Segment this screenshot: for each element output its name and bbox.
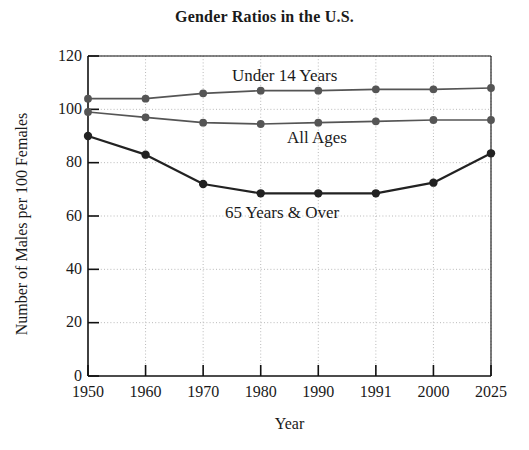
series-label-all-ages: All Ages — [287, 128, 347, 148]
x-tick-1960: 1960 — [116, 383, 176, 401]
x-axis-label: Year — [88, 415, 491, 433]
x-tick-1980: 1980 — [231, 383, 291, 401]
x-tick-1970: 1970 — [173, 383, 233, 401]
x-tick-1990: 1990 — [288, 383, 348, 401]
series-label-65-over: 65 Years & Over — [225, 203, 339, 223]
x-tick-2025: 2025 — [461, 383, 521, 401]
x-tick-1991: 1991 — [346, 383, 406, 401]
x-tick-1950: 1950 — [58, 383, 118, 401]
series-label-under-14: Under 14 Years — [232, 66, 337, 86]
chart-container: Gender Ratios in the U.S. Number of Male… — [0, 0, 529, 450]
x-tick-2000: 2000 — [403, 383, 463, 401]
